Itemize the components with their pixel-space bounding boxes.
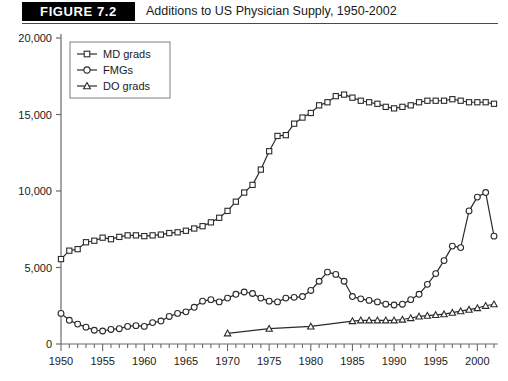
y-axis-tick-label: 5,000 (24, 262, 52, 274)
legend-marker-square (84, 51, 90, 57)
figure-number-badge: FIGURE 7.2 (22, 2, 135, 21)
data-point-marker (233, 291, 239, 297)
x-axis-tick-label: 1970 (215, 355, 239, 367)
data-point-marker (416, 291, 422, 297)
data-point-marker (67, 248, 72, 253)
data-point-marker (117, 234, 122, 239)
data-point-marker (341, 278, 347, 284)
data-point-marker (225, 295, 231, 301)
data-series-group (58, 92, 497, 336)
data-point-marker (300, 115, 305, 120)
data-point-marker (208, 220, 213, 225)
data-point-marker (83, 324, 89, 330)
data-point-marker (250, 291, 256, 297)
x-axis-tick-label: 1985 (340, 355, 364, 367)
data-point-marker (158, 232, 163, 237)
data-point-marker (175, 311, 181, 317)
data-point-marker (450, 97, 455, 102)
x-axis-tick-label: 1955 (90, 355, 114, 367)
data-point-marker (208, 297, 214, 303)
data-point-marker (474, 194, 480, 200)
data-point-marker (350, 294, 356, 300)
data-point-marker (275, 299, 281, 305)
y-axis-tick-label: 20,000 (18, 32, 52, 44)
data-point-marker (292, 121, 297, 126)
x-axis-tick-label: 1995 (423, 355, 447, 367)
data-point-marker (408, 103, 413, 108)
data-point-marker (358, 296, 364, 302)
data-point-marker (216, 299, 222, 305)
data-point-marker (66, 317, 72, 323)
data-point-marker (191, 304, 197, 310)
data-point-marker (266, 298, 272, 304)
data-point-marker (142, 234, 147, 239)
data-point-marker (100, 235, 105, 240)
data-point-marker (291, 294, 297, 300)
data-point-marker (391, 106, 396, 111)
x-axis-tick-label: 1980 (299, 355, 323, 367)
data-point-marker (366, 100, 371, 105)
data-point-marker (233, 199, 238, 204)
data-point-marker (383, 104, 388, 109)
data-point-marker (416, 100, 421, 105)
data-point-marker (58, 256, 63, 261)
data-point-marker (92, 238, 97, 243)
data-point-marker (258, 295, 264, 301)
y-axis-tick-label: 15,000 (18, 109, 52, 121)
data-point-marker (250, 182, 255, 187)
data-point-marker (183, 228, 188, 233)
data-point-marker (125, 233, 130, 238)
y-axis-tick-label: 0 (46, 338, 52, 350)
legend-label: MD grads (103, 48, 151, 60)
figure-title: Additions to US Physician Supply, 1950-2… (146, 3, 397, 20)
data-point-marker (83, 240, 88, 245)
x-axis-tick-label: 2000 (465, 355, 489, 367)
data-point-marker (100, 328, 106, 334)
x-axis-tick-label: 1960 (132, 355, 156, 367)
data-point-marker (283, 133, 288, 138)
data-point-marker (258, 167, 263, 172)
chart-canvas: 05,00010,00015,00020,000 195019551960196… (0, 24, 508, 381)
x-axis-tick-label: 1990 (382, 355, 406, 367)
data-point-marker (308, 288, 314, 294)
data-point-marker (108, 327, 114, 333)
data-point-marker (358, 98, 363, 103)
data-point-marker (491, 301, 497, 307)
data-point-marker (116, 326, 122, 332)
data-point-marker (225, 208, 230, 213)
data-point-marker (350, 95, 355, 100)
x-axis-tick-label: 1965 (174, 355, 198, 367)
figure-header: FIGURE 7.2 Additions to US Physician Sup… (0, 0, 508, 26)
data-point-marker (333, 94, 338, 99)
legend-label: FMGs (103, 64, 133, 76)
data-point-marker (383, 301, 389, 307)
data-point-marker (449, 243, 455, 249)
x-axis: 1950195519601965197019751980198519901995… (49, 344, 498, 367)
data-point-marker (491, 101, 496, 106)
data-point-marker (400, 104, 405, 109)
data-point-marker (267, 149, 272, 154)
line-chart: 05,00010,00015,00020,000 195019551960196… (0, 24, 508, 381)
data-point-marker (91, 327, 97, 333)
data-point-marker (241, 289, 247, 295)
data-point-marker (466, 208, 472, 214)
data-point-marker (333, 271, 339, 277)
data-point-marker (167, 230, 172, 235)
data-point-marker (475, 100, 480, 105)
data-point-marker (316, 278, 322, 284)
data-point-marker (458, 245, 464, 251)
x-axis-tick-label: 1950 (49, 355, 73, 367)
data-point-marker (217, 215, 222, 220)
data-point-marker (483, 190, 489, 196)
data-point-marker (75, 321, 81, 327)
data-point-marker (150, 233, 155, 238)
legend-label: DO grads (103, 80, 151, 92)
legend-marker-circle (84, 67, 90, 73)
data-point-marker (441, 258, 447, 264)
data-point-marker (325, 269, 331, 275)
series-line (61, 193, 494, 331)
data-point-marker (200, 224, 205, 229)
data-point-marker (400, 301, 406, 307)
data-point-marker (375, 299, 381, 305)
data-point-marker (408, 297, 414, 303)
